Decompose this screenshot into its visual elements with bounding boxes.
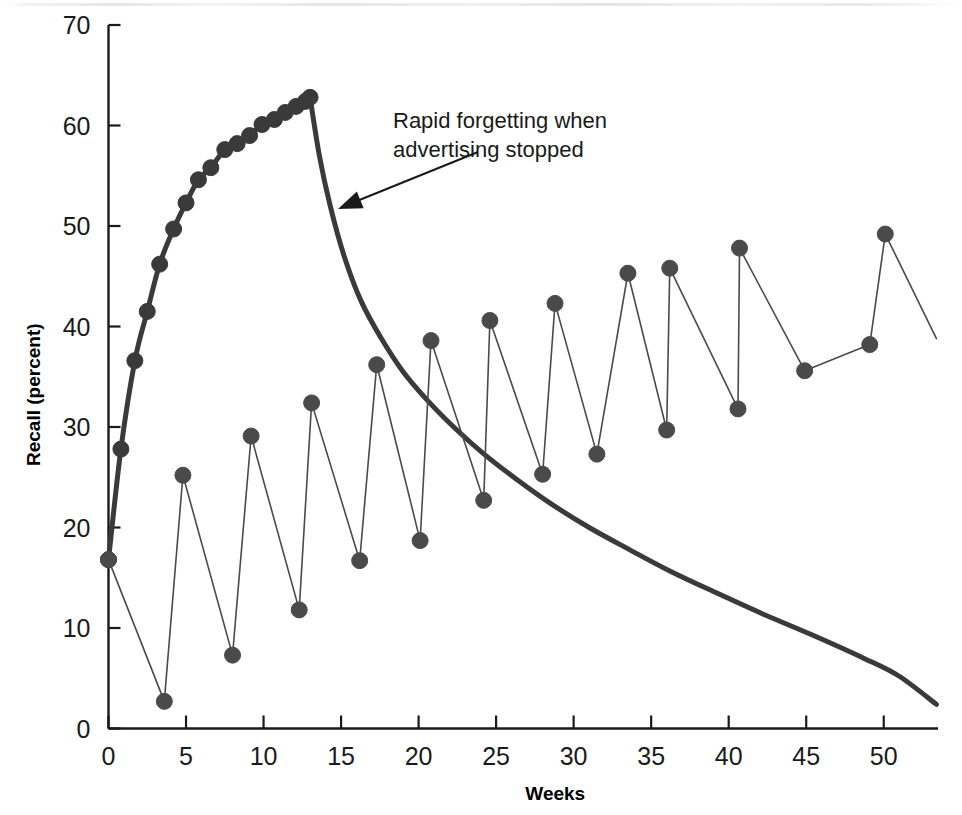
y-axis-tick-label: 0 bbox=[77, 715, 91, 743]
annotation-layer: Rapid forgetting whenadvertising stopped bbox=[338, 108, 607, 209]
x-axis-tick-label: 15 bbox=[327, 742, 355, 770]
annotation-line-1: Rapid forgetting when bbox=[393, 108, 607, 133]
annotation-line-2: advertising stopped bbox=[393, 137, 584, 162]
data-point bbox=[797, 363, 813, 379]
series-1 bbox=[310, 97, 936, 704]
data-point bbox=[547, 295, 563, 311]
x-axis-tick-label: 40 bbox=[715, 742, 743, 770]
series-line bbox=[310, 97, 936, 704]
x-axis-tick-label: 10 bbox=[250, 742, 278, 770]
recall-vs-weeks-chart: Rapid forgetting whenadvertising stopped… bbox=[0, 0, 962, 815]
data-point bbox=[412, 533, 428, 549]
data-point bbox=[304, 395, 320, 411]
data-point bbox=[659, 422, 675, 438]
y-axis-tick-label: 60 bbox=[63, 112, 91, 140]
x-axis-tick-label: 45 bbox=[792, 742, 820, 770]
data-point bbox=[152, 256, 168, 272]
data-point bbox=[166, 221, 182, 237]
data-point bbox=[732, 240, 748, 256]
series-line bbox=[109, 234, 937, 701]
data-point bbox=[862, 337, 878, 353]
data-point bbox=[243, 428, 259, 444]
data-point bbox=[352, 553, 368, 569]
chart-figure: Rapid forgetting whenadvertising stopped… bbox=[0, 0, 962, 815]
data-point bbox=[101, 552, 117, 568]
data-point bbox=[369, 357, 385, 373]
data-point bbox=[620, 265, 636, 281]
annotation-arrow-head bbox=[338, 192, 364, 209]
data-point bbox=[190, 172, 206, 188]
x-axis-tick-label: 50 bbox=[870, 742, 898, 770]
data-point bbox=[139, 303, 155, 319]
x-axis-tick-label: 5 bbox=[179, 742, 193, 770]
x-axis-title: Weeks bbox=[525, 783, 585, 804]
x-axis-tick-label: 35 bbox=[637, 742, 665, 770]
y-axis-tick-label: 40 bbox=[63, 313, 91, 341]
rapid-forgetting-note: Rapid forgetting whenadvertising stopped bbox=[338, 108, 607, 209]
data-point bbox=[476, 492, 492, 508]
data-point bbox=[156, 693, 172, 709]
series-0 bbox=[101, 89, 319, 567]
data-point bbox=[589, 446, 605, 462]
data-point bbox=[225, 647, 241, 663]
series-layer bbox=[101, 89, 937, 709]
data-point bbox=[535, 466, 551, 482]
y-axis-title: Recall (percent) bbox=[23, 323, 44, 466]
x-axis-tick-label: 20 bbox=[405, 742, 433, 770]
data-point bbox=[730, 401, 746, 417]
y-axis-tick-label: 70 bbox=[63, 11, 91, 39]
data-point bbox=[877, 226, 893, 242]
data-point bbox=[242, 128, 258, 144]
y-axis-tick-label: 20 bbox=[63, 514, 91, 542]
data-point bbox=[127, 353, 143, 369]
data-point bbox=[203, 160, 219, 176]
data-point bbox=[662, 260, 678, 276]
data-point bbox=[423, 333, 439, 349]
data-point bbox=[175, 467, 191, 483]
data-point bbox=[482, 312, 498, 328]
y-axis-tick-label: 50 bbox=[63, 212, 91, 240]
x-axis-tick-label: 0 bbox=[102, 742, 116, 770]
data-point bbox=[113, 441, 129, 457]
x-axis-tick-label: 25 bbox=[482, 742, 510, 770]
y-axis-tick-label: 30 bbox=[63, 413, 91, 441]
data-point bbox=[178, 195, 194, 211]
data-point bbox=[291, 602, 307, 618]
y-axis-tick-label: 10 bbox=[63, 614, 91, 642]
x-axis-tick-label: 30 bbox=[560, 742, 588, 770]
